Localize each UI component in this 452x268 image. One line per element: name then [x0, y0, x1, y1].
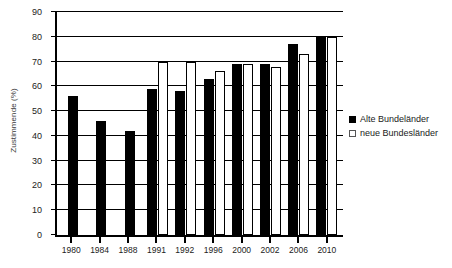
y-axis-tick-label: 10 [32, 205, 42, 215]
bar-group [200, 12, 228, 235]
bar [243, 64, 253, 235]
bar-group [87, 12, 115, 235]
bar-group [228, 12, 256, 235]
x-axis-tick [326, 237, 328, 243]
x-axis-tick [241, 237, 243, 243]
x-axis-tick [184, 237, 186, 243]
x-axis-tick-label: 2002 [256, 245, 284, 255]
bar-group [59, 12, 87, 235]
bar-chart: Zustimmende (%) 0102030405060708090 1980… [0, 0, 452, 268]
bar [175, 91, 185, 235]
bar [186, 62, 196, 235]
y-axis-tick-label: 40 [32, 131, 42, 141]
bar [271, 67, 281, 235]
x-axis-tick [70, 237, 72, 243]
x-axis-tick-slot [199, 237, 227, 243]
y-axis-tick-label: 30 [32, 156, 42, 166]
bar [288, 44, 298, 235]
x-axis-tick-slot [313, 237, 341, 243]
y-axis-tick-label: 90 [32, 7, 42, 17]
legend-item-label: Alte Bundeländer [360, 114, 429, 124]
bar [260, 64, 270, 235]
x-axis-tick-label: 1996 [199, 245, 227, 255]
x-axis-tick-slot [171, 237, 199, 243]
x-axis-tick-slot [256, 237, 284, 243]
legend-item-label: neue Bundesländer [360, 128, 438, 138]
x-axis-tick-slot [227, 237, 255, 243]
bar-group [144, 12, 172, 235]
legend: Alte Bundeländerneue Bundesländer [349, 114, 438, 138]
bar-groups [57, 12, 343, 235]
bar-group [115, 12, 143, 235]
y-axis-tick-label: 50 [32, 106, 42, 116]
x-axis-tick-label: 1984 [85, 245, 113, 255]
x-axis-tick [297, 237, 299, 243]
y-axis-title: Zustimmende (%) [2, 0, 24, 240]
bar [158, 62, 168, 235]
bar [316, 37, 326, 235]
bar-group [256, 12, 284, 235]
bar-group [172, 12, 200, 235]
bar-group [313, 12, 341, 235]
y-axis-tick-label: 20 [32, 180, 42, 190]
y-axis-tick-label: 80 [32, 32, 42, 42]
bar [68, 96, 78, 235]
legend-item[interactable]: neue Bundesländer [349, 128, 438, 138]
filled-square-icon [349, 116, 356, 123]
bar [232, 64, 242, 235]
x-axis-tick-label: 2010 [313, 245, 341, 255]
bar [327, 37, 337, 235]
x-axis-tick [127, 237, 129, 243]
plot-area: 0102030405060708090 [55, 12, 343, 237]
x-axis-tick [99, 237, 101, 243]
y-axis-tick-label: 60 [32, 81, 42, 91]
x-axis-tick-label: 1980 [57, 245, 85, 255]
x-axis-ticks [55, 237, 343, 243]
x-axis-tick-slot [142, 237, 170, 243]
x-axis-tick-slot [284, 237, 312, 243]
bar [147, 89, 157, 235]
y-axis-tick-label: 0 [37, 230, 42, 240]
hollow-square-icon [349, 130, 356, 137]
bar [215, 71, 225, 235]
x-axis-tick-slot [85, 237, 113, 243]
x-axis-tick [155, 237, 157, 243]
y-axis-title-text: Zustimmende (%) [9, 88, 18, 153]
x-axis-tick-slot [57, 237, 85, 243]
bar [96, 121, 106, 235]
y-axis-tick-label: 70 [32, 57, 42, 67]
x-axis-tick-label: 1988 [114, 245, 142, 255]
bar [204, 79, 214, 235]
x-axis-tick-label: 1992 [171, 245, 199, 255]
bar-group [285, 12, 313, 235]
x-axis-tick-label: 2006 [284, 245, 312, 255]
legend-item[interactable]: Alte Bundeländer [349, 114, 438, 124]
x-axis-tick [269, 237, 271, 243]
bar [125, 131, 135, 235]
x-axis-tick-label: 1991 [142, 245, 170, 255]
plot-frame: 0102030405060708090 [55, 12, 343, 237]
x-axis-tick-slot [114, 237, 142, 243]
x-axis-tick-label: 2000 [227, 245, 255, 255]
bar [299, 54, 309, 235]
x-axis-tick [212, 237, 214, 243]
x-axis-labels: 1980198419881991199219962000200220062010 [55, 245, 343, 255]
